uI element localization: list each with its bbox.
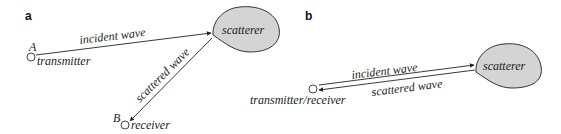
scatterer-label: scatterer — [483, 59, 526, 73]
scattered-wave-arrow — [130, 38, 212, 121]
transceiver-node — [309, 85, 317, 93]
incident-wave-label: incident wave — [79, 25, 147, 47]
scattering-diagram: a scatterer A transmitter incident wave … — [0, 0, 561, 134]
panel-a-label: a — [25, 9, 32, 23]
panel-a: a scatterer A transmitter incident wave … — [25, 7, 279, 132]
point-b-label: B — [113, 111, 121, 125]
transceiver-label: transmitter/receiver — [250, 93, 346, 107]
scattered-wave-label: scattered wave — [371, 76, 444, 99]
transmitter-node — [27, 53, 35, 61]
panel-b: b scatterer transmitter/receiver inciden… — [250, 9, 541, 107]
scattered-wave-label: scattered wave — [132, 44, 193, 105]
scatterer-label: scatterer — [222, 23, 265, 37]
panel-b-label: b — [305, 9, 312, 23]
point-a-label: A — [28, 40, 37, 54]
receiver-node — [121, 121, 129, 129]
transmitter-label: transmitter — [37, 54, 91, 68]
receiver-label: receiver — [131, 118, 170, 132]
